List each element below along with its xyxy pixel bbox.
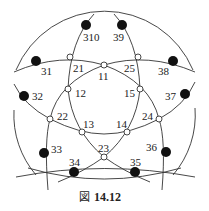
open-node-24 [156, 116, 162, 122]
figure-caption: 図 14.12 [79, 190, 121, 204]
node-label-35: 35 [130, 156, 142, 168]
star-arcs [14, 14, 195, 190]
node-label-11: 11 [98, 70, 109, 82]
node-label-310: 310 [83, 31, 100, 43]
node-label-36: 36 [146, 141, 158, 153]
node-label-25: 25 [124, 62, 136, 74]
node-label-21: 21 [73, 62, 84, 74]
filled-node-37 [180, 89, 190, 99]
open-node-15 [137, 86, 143, 92]
node-label-23: 23 [98, 142, 110, 154]
node-label-32: 32 [32, 90, 43, 102]
node-label-13: 13 [83, 118, 95, 130]
open-node-11 [101, 62, 107, 68]
filled-node-33 [39, 148, 49, 158]
filled-node-39 [117, 20, 127, 30]
filled-node-34 [69, 167, 79, 177]
inner-nodes: 21251112152224131423 [47, 54, 162, 160]
caption-prefix: 図 [79, 191, 90, 204]
open-node-22 [47, 116, 53, 122]
open-node-23 [101, 154, 107, 160]
filled-node-38 [168, 56, 178, 66]
open-node-12 [65, 86, 71, 92]
node-label-24: 24 [142, 110, 154, 122]
node-label-39: 39 [113, 31, 125, 43]
node-label-31: 31 [41, 65, 52, 77]
filled-node-36 [161, 147, 171, 157]
filled-node-32 [19, 91, 29, 101]
caption-number: 14.12 [94, 190, 121, 204]
node-label-22: 22 [57, 110, 68, 122]
graph-diagram: 310393138323733363435 212511121522241314… [0, 0, 209, 211]
node-label-33: 33 [51, 143, 63, 155]
node-label-12: 12 [75, 87, 86, 99]
filled-node-31 [31, 56, 41, 66]
filled-node-310 [81, 20, 91, 30]
open-node-21 [67, 54, 73, 60]
node-label-14: 14 [116, 118, 128, 130]
node-label-37: 37 [165, 90, 177, 102]
node-label-38: 38 [158, 65, 170, 77]
node-label-34: 34 [69, 156, 81, 168]
open-node-25 [135, 54, 141, 60]
node-label-15: 15 [124, 87, 136, 99]
filled-node-35 [130, 167, 140, 177]
